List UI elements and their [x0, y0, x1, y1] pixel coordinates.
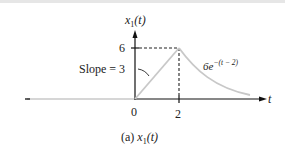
x-tick-label-2: 2: [175, 107, 181, 121]
slope-leader-line: [138, 69, 149, 76]
y-axis-label: x1(t): [124, 13, 146, 29]
y-tick-label-6: 6: [119, 41, 125, 55]
decay-annotation: 6e−(t − 2): [203, 58, 239, 72]
figure-caption: (a) x1(t): [121, 130, 158, 146]
x-axis-arrow-icon: [259, 97, 267, 102]
signal-plot: x1(t) 6 Slope = 3 6e−(t − 2) 0 2 t (a) x…: [0, 0, 285, 155]
signal-decay-segment: [179, 48, 250, 95]
signal-ramp-segment: [135, 48, 179, 99]
x-axis-label: t: [268, 92, 272, 106]
slope-annotation: Slope = 3: [79, 62, 125, 76]
x-tick-label-0: 0: [131, 105, 137, 119]
y-axis-arrow-icon: [133, 30, 138, 38]
